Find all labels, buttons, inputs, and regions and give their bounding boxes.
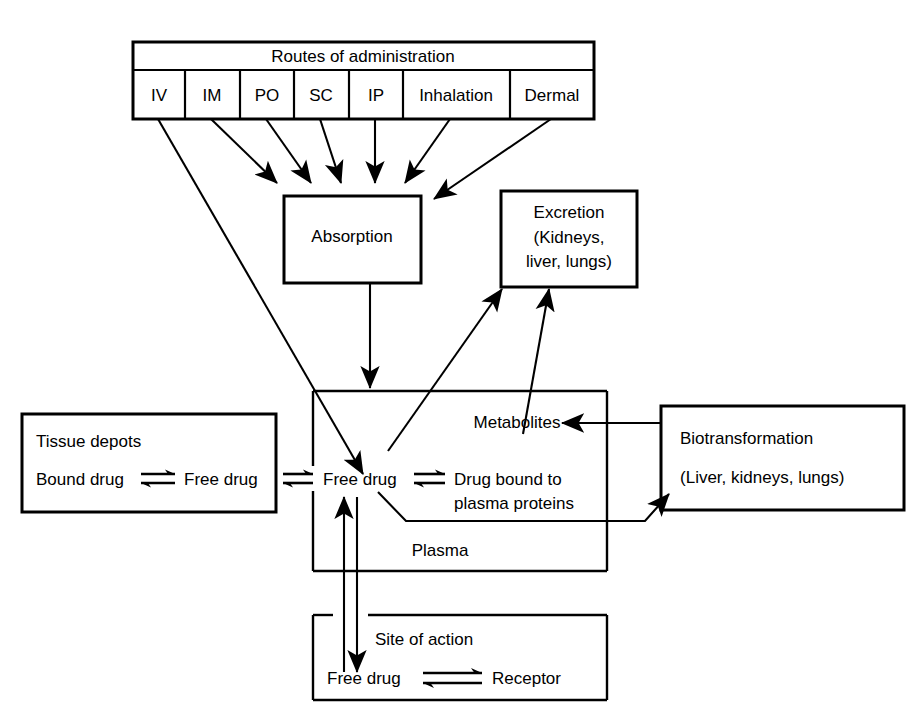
drug-bound-line-1: Drug bound to [454,470,562,489]
absorption-label: Absorption [311,227,392,246]
tissue-depots-bound-drug: Bound drug [36,470,124,489]
plasma-site-of-action-arrows [344,497,357,672]
route-cell-ip[interactable]: IP [368,86,384,105]
excretion-box-group: Excretion (Kidneys, liver, lungs) [501,191,637,287]
arrow-po-to-absorption [266,119,311,183]
excretion-title-label: Excretion [534,203,605,222]
site-of-action-free-drug: Free drug [327,669,401,688]
tissue-depots-box[interactable] [22,414,276,512]
arrow-im-to-absorption [211,119,277,183]
plasma-compartment-label: Plasma [412,541,469,560]
arrow-dermal-to-absorption [434,119,551,199]
route-cell-iv[interactable]: IV [151,86,168,105]
arrow-inhalation-to-absorption [405,119,450,183]
metabolites-label: Metabolites [474,413,561,432]
route-cell-dermal[interactable]: Dermal [525,86,580,105]
tissue-depots-free-drug: Free drug [184,470,258,489]
drug-bound-line-2: plasma proteins [454,494,574,513]
biotransformation-liver-bold: Liver [686,468,723,487]
excretion-comma: , [600,228,605,247]
excretion-organs-primary-line: (Kidneys, [534,228,605,247]
excretion-kidneys-bold: Kidneys [539,228,599,247]
site-of-action-title: Site of action [375,630,473,649]
site-of-action-equilibrium-icon [423,668,482,688]
biotransformation-organs-line: (Liver, kidneys, lungs) [680,468,844,487]
route-cell-im[interactable]: IM [203,86,222,105]
diagram-canvas: Routes of administration IV IM PO SC IP … [0,0,918,726]
routes-of-administration-group: Routes of administration IV IM PO SC IP … [133,42,594,119]
route-cell-sc[interactable]: SC [309,86,333,105]
tissue-depots-group: Tissue depots Bound drug Free drug [22,414,276,512]
routes-header-label: Routes of administration [271,47,454,66]
route-cell-po[interactable]: PO [255,86,280,105]
plasma-binding-equilibrium-icon [414,470,445,488]
tissue-plasma-equilibrium-icon [283,470,313,488]
pharmacokinetics-diagram: Routes of administration IV IM PO SC IP … [0,0,918,726]
biotransformation-box[interactable] [661,406,904,510]
arrow-sc-to-absorption [320,119,341,183]
excretion-organs-secondary-line: liver, lungs) [526,252,612,271]
site-of-action-receptor: Receptor [492,669,561,688]
route-cell-inhalation[interactable]: Inhalation [419,86,493,105]
biotransformation-organs-rest: , kidneys, lungs) [722,468,845,487]
absorption-box-group: Absorption [284,196,421,388]
biotransformation-title: Biotransformation [680,429,813,448]
tissue-depots-title: Tissue depots [36,432,141,451]
plasma-free-drug-label: Free drug [323,470,397,489]
